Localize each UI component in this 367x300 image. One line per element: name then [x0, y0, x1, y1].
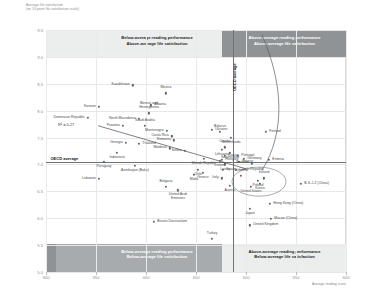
x-axis-tick-mark	[96, 272, 97, 275]
trendline-and-highlight-layer	[46, 30, 346, 272]
x-axis-tick-mark	[296, 272, 297, 275]
x-axis-tick-mark	[196, 272, 197, 275]
y-axis-tick-label: 5.0	[37, 270, 43, 275]
x-axis-tick-label: 400	[143, 275, 150, 280]
data-point-label: United States	[240, 190, 261, 194]
data-point-label: Sweden	[236, 161, 249, 165]
x-axis-tick-mark	[146, 272, 147, 275]
y-axis-tick-label: 8.0	[37, 108, 43, 113]
data-point-label: Azerbaijan (Baku)	[121, 169, 149, 173]
data-point-label: Hong Kong (China)	[273, 202, 303, 206]
data-point-label: Kosovo	[84, 105, 96, 109]
x-axis-tick-label: 350	[93, 275, 100, 280]
data-point-label: Japan	[245, 212, 255, 216]
x-axis-tick-label: 550	[293, 275, 300, 280]
data-point-label: Kazakhstan	[111, 83, 129, 87]
y-axis-tick-label: 7.5	[37, 135, 43, 140]
data-point-label: Croatia	[219, 140, 230, 144]
data-point-label: Saudi Arabia	[128, 119, 162, 123]
data-point-label: Dominican Republic	[54, 116, 85, 120]
y-axis-tick-label: 9.5	[37, 28, 43, 33]
gridline-x	[346, 30, 347, 272]
r-squared-annotation: R² = 0.27	[58, 122, 74, 127]
data-point-label: United Kingdom	[253, 223, 278, 227]
plot-area: Below-average reading performance Above-…	[46, 30, 346, 272]
data-point-label: Slovak Republic	[191, 162, 217, 166]
x-axis-tick-label: 300	[43, 275, 50, 280]
y-axis-tick-label: 6.5	[37, 189, 43, 194]
data-point-label: Moldova	[153, 146, 166, 150]
x-axis-title: Average reading score	[312, 282, 346, 286]
data-point-label: United Arab Emirates	[165, 193, 191, 201]
y-axis-tick-label: 7.0	[37, 162, 43, 167]
data-point-label: Panama	[107, 124, 120, 128]
data-point-label: Ireland	[259, 171, 270, 175]
data-point-label: Serbia	[172, 149, 182, 153]
data-point-label: Austria	[225, 189, 236, 193]
data-point-label: B-S-J-Z (China)	[304, 182, 329, 186]
y-axis-tick-label: 8.5	[37, 81, 43, 86]
data-point-label: Paraguay	[97, 165, 112, 169]
annotation-curve	[262, 35, 279, 171]
data-point-label: Belarus	[214, 125, 226, 129]
data-point-label: Malta	[190, 178, 199, 182]
x-axis-tick-label: 450	[193, 275, 200, 280]
x-axis-tick-mark	[346, 272, 347, 275]
data-point-label: Greece	[197, 176, 208, 180]
data-point-label: Georgia	[110, 141, 122, 145]
x-axis-tick-label: 500	[243, 275, 250, 280]
x-axis-tick-label: 600	[343, 275, 350, 280]
data-point-label: Bosnia and Herzegovina	[132, 102, 166, 110]
chart-container: Average life satisfaction (on 10-point l…	[0, 0, 367, 300]
data-point-label: Montenegro	[145, 129, 164, 133]
y-axis-tick-label: 5.5	[37, 243, 43, 248]
data-point-label: Brunei Darussalam	[157, 220, 187, 224]
data-point-label: Turkey	[207, 232, 218, 236]
x-axis-tick-mark	[246, 272, 247, 275]
data-point-label: Finland	[269, 130, 280, 134]
data-point-label: Indonesia	[109, 156, 124, 160]
data-point-label: Macao (China)	[274, 217, 297, 221]
data-point-label: Romania	[157, 138, 171, 142]
data-point-label: Lebanon	[82, 177, 96, 181]
y-axis-tick-label: 9.0	[37, 54, 43, 59]
y-axis-title: Average life satisfaction (on 10-point l…	[26, 3, 79, 12]
x-axis-tick-mark	[46, 272, 47, 275]
data-point-label: Italy	[212, 176, 218, 180]
data-point-label: Mexico	[160, 86, 171, 90]
data-point-label: Estonia	[272, 158, 284, 162]
data-point-label: Bulgaria	[160, 180, 173, 184]
y-axis-tick-label: 6.0	[37, 216, 43, 221]
y-axis-title-line2: (on 10-point life satisfaction scale)	[26, 7, 79, 11]
